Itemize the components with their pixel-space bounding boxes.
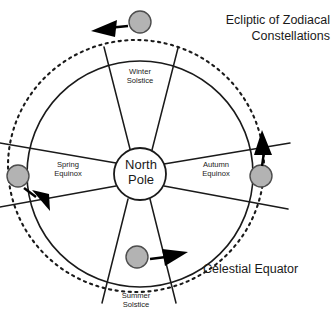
spring-equinox-label: Spring Equinox [40, 161, 96, 179]
sun-bottom [126, 246, 148, 268]
north-pole-label: North Pole [113, 158, 169, 187]
sun-right [250, 165, 272, 187]
sun-left [7, 165, 29, 187]
arrow-bottom [150, 249, 188, 266]
spoke-spring-bottom [0, 186, 116, 208]
autumn-equinox-label: Autumn Equinox [187, 161, 245, 179]
sun-markers [7, 11, 272, 268]
sun-top [129, 11, 151, 33]
winter-solstice-label: Winter Solstice [108, 68, 172, 86]
arrow-right [254, 130, 272, 166]
arrow-top [91, 20, 128, 37]
motion-arrows [24, 20, 272, 266]
spoke-autumn-bottom [164, 186, 288, 209]
spoke-summer-left [102, 199, 128, 303]
diagram-canvas: Ecliptic of Zodiacal Constellations Cele… [0, 0, 336, 329]
celestial-equator-caption: Celestial Equator [203, 262, 331, 277]
summer-solstice-label: Summer Solstice [104, 292, 168, 310]
ecliptic-title: Ecliptic of Zodiacal Constellations [180, 12, 330, 45]
